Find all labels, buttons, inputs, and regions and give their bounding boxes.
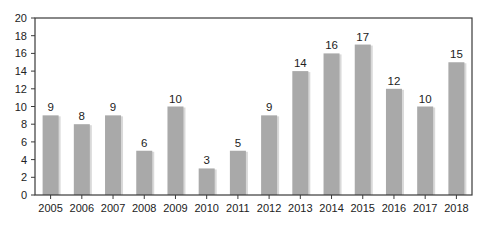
data-label: 8 [79, 110, 85, 122]
bar-2018 [448, 62, 464, 195]
x-tick-label: 2012 [257, 202, 281, 214]
data-label: 15 [450, 48, 463, 60]
x-tick-label: 2016 [382, 202, 406, 214]
bar-2007 [105, 115, 121, 195]
x-tick-label: 2013 [288, 202, 312, 214]
data-label: 14 [294, 57, 307, 69]
x-tick-label: 2010 [194, 202, 218, 214]
bar-2015 [355, 45, 371, 195]
chart-canvas: 989610359141617121015 02468101214161820 … [0, 0, 489, 227]
x-tick-label: 2005 [38, 202, 62, 214]
y-tick-label: 2 [21, 171, 27, 183]
data-label: 10 [169, 93, 182, 105]
bar-2005 [43, 115, 59, 195]
x-tick-label: 2017 [413, 202, 437, 214]
data-label: 12 [388, 75, 401, 87]
y-tick-label: 16 [15, 47, 27, 59]
y-tick-label: 8 [21, 118, 27, 130]
data-label: 17 [356, 31, 369, 43]
x-tick-label: 2006 [70, 202, 94, 214]
y-tick-label: 20 [15, 12, 27, 24]
bar-2016 [386, 89, 402, 195]
y-tick-label: 4 [21, 154, 27, 166]
bar-2012 [261, 115, 277, 195]
x-tick-label: 2014 [319, 202, 343, 214]
data-label: 10 [419, 93, 432, 105]
y-tick-label: 0 [21, 189, 27, 201]
data-label: 9 [110, 101, 116, 113]
bar-2014 [324, 53, 340, 195]
bar-2006 [74, 124, 90, 195]
data-label: 16 [325, 39, 338, 51]
bar-2011 [230, 151, 246, 195]
bar-2009 [167, 107, 183, 196]
plot-frame [35, 18, 472, 195]
bar-series [43, 45, 467, 195]
y-tick-label: 14 [15, 65, 27, 77]
y-tick-label: 18 [15, 30, 27, 42]
x-tick-label: 2011 [226, 202, 250, 214]
bar-2010 [199, 168, 215, 195]
bar-2017 [417, 107, 433, 196]
x-axis: 2005200620072008200920102011201220132014… [38, 195, 468, 214]
bar-2008 [136, 151, 152, 195]
y-tick-label: 10 [15, 101, 27, 113]
y-axis: 02468101214161820 [15, 12, 35, 201]
data-label: 9 [266, 101, 272, 113]
data-label: 3 [203, 154, 209, 166]
bar-2013 [292, 71, 308, 195]
data-label: 5 [235, 137, 241, 149]
x-tick-label: 2008 [132, 202, 156, 214]
x-tick-label: 2018 [444, 202, 468, 214]
bar-chart: 989610359141617121015 02468101214161820 … [0, 0, 489, 227]
x-tick-label: 2007 [101, 202, 125, 214]
y-tick-label: 12 [15, 83, 27, 95]
data-label: 6 [141, 137, 147, 149]
data-label: 9 [47, 101, 53, 113]
x-tick-label: 2009 [163, 202, 187, 214]
y-tick-label: 6 [21, 136, 27, 148]
x-tick-label: 2015 [351, 202, 375, 214]
